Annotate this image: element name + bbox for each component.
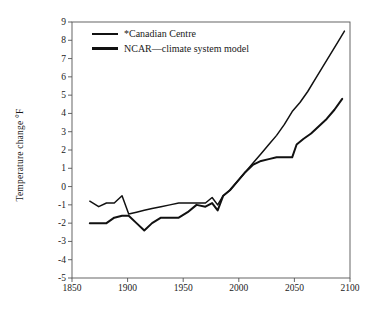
y-tick-label: -1 bbox=[44, 200, 66, 210]
plot-frame bbox=[72, 22, 350, 278]
legend-label-canadian-centre: *Canadian Centre bbox=[124, 26, 196, 41]
axis-ticks bbox=[68, 22, 350, 282]
data-lines bbox=[90, 31, 345, 230]
legend-item-ncar: NCAR—climate system model bbox=[92, 41, 249, 56]
y-tick-label: 7 bbox=[44, 54, 66, 64]
y-tick-label: 4 bbox=[44, 108, 66, 118]
y-tick-label: 1 bbox=[44, 163, 66, 173]
chart-figure: Temperature change °F -5-4-3-2-101234567… bbox=[0, 0, 378, 330]
y-tick-label: 9 bbox=[44, 17, 66, 27]
y-tick-label: 6 bbox=[44, 72, 66, 82]
legend-item-canadian-centre: *Canadian Centre bbox=[92, 26, 249, 41]
y-tick-label: -3 bbox=[44, 236, 66, 246]
y-tick-label: 3 bbox=[44, 127, 66, 137]
y-tick-label: 0 bbox=[44, 182, 66, 192]
legend-swatch-ncar bbox=[92, 47, 118, 50]
y-tick-label: -2 bbox=[44, 218, 66, 228]
x-tick-label: 2100 bbox=[330, 283, 370, 293]
y-tick-label: 2 bbox=[44, 145, 66, 155]
chart-legend: *Canadian Centre NCAR—climate system mod… bbox=[92, 26, 249, 56]
x-tick-label: 2050 bbox=[274, 283, 314, 293]
x-tick-label: 1850 bbox=[52, 283, 92, 293]
y-tick-label: 5 bbox=[44, 90, 66, 100]
y-tick-label: -4 bbox=[44, 255, 66, 265]
x-tick-label: 1950 bbox=[163, 283, 203, 293]
y-tick-label: 8 bbox=[44, 35, 66, 45]
y-tick-label: -5 bbox=[44, 273, 66, 283]
legend-swatch-canadian-centre bbox=[92, 33, 118, 35]
legend-label-ncar: NCAR—climate system model bbox=[124, 41, 249, 56]
x-tick-label: 1900 bbox=[108, 283, 148, 293]
x-tick-label: 2000 bbox=[219, 283, 259, 293]
